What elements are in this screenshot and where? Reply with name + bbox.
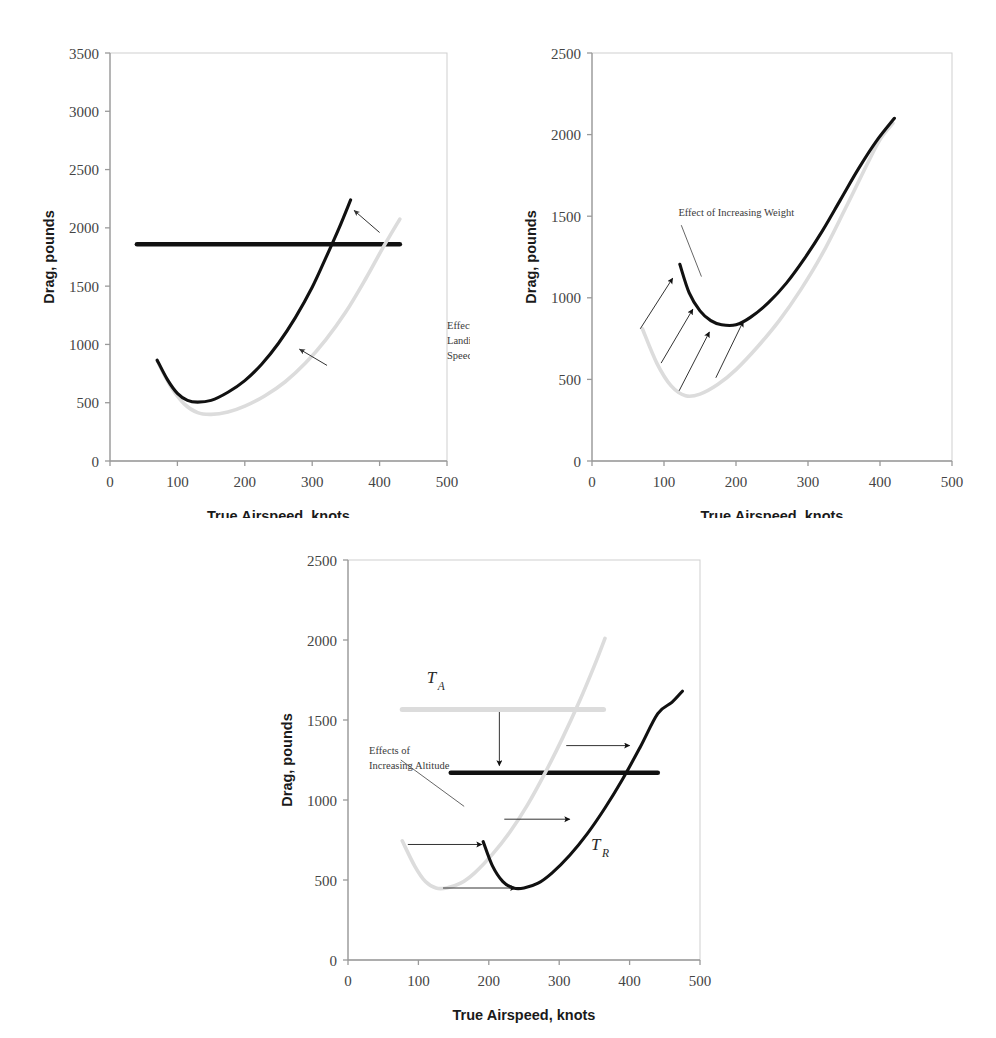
series-line: [680, 118, 895, 325]
y-tick-label: 3500: [69, 46, 99, 62]
x-tick-label: 500: [941, 474, 964, 490]
effect-note-line: Effect of Extending: [447, 320, 470, 331]
x-tick-label: 100: [407, 973, 430, 989]
y-tick-label: 1500: [307, 713, 337, 729]
curve-label-TA-subscript: A: [437, 680, 446, 692]
y-tick-label: 2500: [69, 162, 99, 178]
x-tick-label: 200: [478, 973, 501, 989]
y-tick-label: 500: [77, 395, 100, 411]
x-tick-label: 500: [436, 474, 459, 490]
weight-arrow-1: [640, 278, 672, 329]
effect-note-line: Speed Brakes: [447, 350, 470, 361]
y-tick-label: 0: [574, 454, 582, 470]
x-tick-label: 300: [797, 474, 820, 490]
chart-increasing-weight-svg: 050010001500200025000100200300400500True…: [470, 18, 970, 518]
x-axis-title: True Airspeed, knots: [207, 508, 350, 518]
y-tick-label: 500: [559, 372, 582, 388]
y-tick-label: 2000: [69, 220, 99, 236]
drag-vs-airspeed-figure: 0500100015002000250030003500010020030040…: [0, 0, 996, 1038]
arrow-upper: [354, 210, 380, 232]
curve-label-TR: T: [591, 835, 602, 854]
y-tick-label: 2500: [307, 553, 337, 569]
y-tick-label: 0: [330, 953, 338, 969]
x-tick-label: 200: [725, 474, 748, 490]
x-tick-label: 200: [234, 474, 257, 490]
series-line: [642, 123, 893, 396]
series-line: [157, 200, 350, 402]
x-tick-label: 300: [301, 474, 324, 490]
x-tick-label: 100: [653, 474, 676, 490]
chart-increasing-weight: 050010001500200025000100200300400500True…: [470, 18, 970, 518]
y-axis-title: Drag, pounds: [523, 210, 539, 303]
chart-landing-gear-svg: 0500100015002000250030003500010020030040…: [0, 18, 470, 518]
y-tick-label: 1000: [551, 290, 581, 306]
x-tick-label: 100: [166, 474, 189, 490]
y-tick-label: 2000: [551, 127, 581, 143]
effect-note-line: Landing Gear or: [447, 335, 470, 346]
x-axis-title: True Airspeed, knots: [453, 1007, 596, 1023]
x-tick-label: 300: [548, 973, 571, 989]
y-tick-label: 3000: [69, 104, 99, 120]
chart-landing-gear: 0500100015002000250030003500010020030040…: [0, 18, 470, 518]
x-tick-label: 400: [618, 973, 641, 989]
y-tick-label: 0: [92, 454, 100, 470]
y-tick-label: 1500: [551, 209, 581, 225]
series-line: [157, 219, 400, 414]
effect-note-line: Effect of Increasing Weight: [678, 207, 794, 218]
curve-label-TA: T: [427, 668, 438, 687]
y-tick-label: 500: [315, 873, 338, 889]
y-tick-label: 1000: [307, 793, 337, 809]
y-axis-title: Drag, pounds: [279, 713, 295, 806]
y-tick-label: 1000: [69, 337, 99, 353]
y-tick-label: 1500: [69, 279, 99, 295]
x-tick-label: 400: [368, 474, 391, 490]
x-axis-title: True Airspeed, knots: [701, 508, 844, 518]
plot-frame: [592, 53, 952, 461]
x-tick-label: 0: [106, 474, 114, 490]
effect-note-line: Increasing Altitude: [369, 760, 450, 771]
chart-increasing-altitude: 050010001500200025000100200300400500True…: [200, 528, 760, 1038]
curve-label-TR-subscript: R: [601, 847, 609, 859]
effect-note-line: Effects of: [369, 745, 410, 756]
weight-arrow-2: [661, 309, 693, 363]
leader-line: [681, 225, 701, 276]
y-axis-title: Drag, pounds: [41, 210, 57, 303]
x-tick-label: 400: [869, 474, 892, 490]
plot-frame: [110, 53, 447, 461]
series-line: [483, 691, 682, 889]
x-tick-label: 0: [588, 474, 596, 490]
weight-arrow-3: [679, 332, 709, 391]
chart-increasing-altitude-svg: 050010001500200025000100200300400500True…: [200, 528, 760, 1038]
y-tick-label: 2000: [307, 633, 337, 649]
weight-arrow-4: [716, 321, 743, 377]
x-tick-label: 500: [689, 973, 712, 989]
y-tick-label: 2500: [551, 46, 581, 62]
x-tick-label: 0: [344, 973, 352, 989]
